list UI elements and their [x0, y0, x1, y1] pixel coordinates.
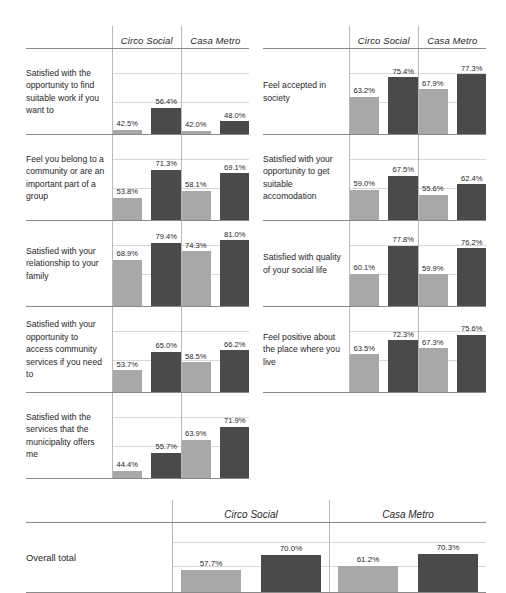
bar-value-label: 70.3%	[437, 544, 460, 552]
plot-cell: 53.8%71.3%	[112, 135, 181, 220]
bar-group: 63.9%71.9%	[182, 393, 250, 478]
bar-value-label: 71.3%	[155, 160, 177, 168]
bar-dark	[457, 248, 486, 306]
bar-value-label: 77.8%	[392, 236, 414, 244]
bar-value-label: 77.3%	[461, 65, 483, 73]
bar-item-light: 57.7%	[181, 523, 241, 592]
plot-cell: 59.9%76.2%	[418, 221, 487, 306]
question-label: Satisfied with your opportunity to get s…	[263, 135, 349, 220]
bar-dark	[261, 555, 321, 592]
question-label: Satisfied with the services that the mun…	[26, 393, 112, 478]
bar-light	[112, 198, 142, 220]
column-header-left: Circo Social Casa Metro	[26, 26, 249, 49]
bar-group: 55.6%62.4%	[419, 135, 487, 220]
bar-dark	[388, 340, 417, 392]
bar-dark	[388, 77, 417, 134]
bar-value-label: 75.4%	[392, 68, 414, 76]
plot-cell: 58.1%69.1%	[181, 135, 250, 220]
bar-dark	[388, 246, 417, 307]
question-label: Satisfied with your opportunity to acces…	[26, 307, 112, 392]
bar-value-label: 71.9%	[224, 417, 246, 425]
bar-light	[112, 370, 142, 392]
bar-item-light: 53.7%	[112, 307, 142, 392]
bar-group: 53.7%65.0%	[113, 307, 181, 392]
bar-group: 59.9%76.2%	[419, 221, 487, 306]
bar-value-label: 76.2%	[461, 239, 483, 247]
bar-value-label: 58.1%	[185, 181, 207, 189]
question-row: Satisfied with your relationship to your…	[26, 221, 249, 307]
bar-item-light: 42.5%	[112, 49, 142, 134]
panel-column-right: Circo Social Casa Metro Feel accepted in…	[263, 26, 486, 479]
bar-item-dark: 69.1%	[220, 135, 249, 220]
plot-cell: 59.0%67.5%	[349, 135, 418, 220]
panel-rows-right: Feel accepted in society63.2%75.4%67.9%7…	[263, 49, 486, 393]
bar-light	[418, 348, 448, 392]
bar-item-light: 74.3%	[181, 221, 211, 306]
question-row: Satisfied with your opportunity to get s…	[263, 135, 486, 221]
bar-value-label: 70.0%	[280, 545, 303, 553]
bar-dark	[418, 554, 478, 592]
bar-value-label: 56.4%	[155, 98, 177, 106]
bar-value-label: 61.2%	[357, 556, 380, 564]
bar-item-light: 63.9%	[181, 393, 211, 478]
bar-light	[181, 362, 211, 392]
bar-item-light: 42.0%	[181, 49, 211, 134]
bar-item-light: 63.5%	[349, 307, 379, 392]
question-row: Satisfied with quality of your social li…	[263, 221, 486, 307]
bar-value-label: 58.5%	[185, 353, 207, 361]
bar-item-light: 68.9%	[112, 221, 142, 306]
bar-dark	[151, 243, 180, 306]
bar-group: 53.8%71.3%	[113, 135, 181, 220]
column-label-casa-metro: Casa Metro	[329, 500, 486, 522]
bar-item-dark: 56.4%	[151, 49, 180, 134]
bar-item-dark: 67.5%	[388, 135, 417, 220]
bar-value-label: 65.0%	[155, 342, 177, 350]
bar-item-light: 60.1%	[349, 221, 379, 306]
bar-group: 58.5%66.2%	[182, 307, 250, 392]
bar-light	[349, 190, 379, 220]
bar-dark	[151, 170, 180, 220]
header-spacer	[26, 26, 112, 48]
bar-item-light: 44.4%	[112, 393, 142, 478]
bar-item-dark: 66.2%	[220, 307, 249, 392]
bar-light	[181, 191, 211, 220]
plot-cell: 74.3%81.0%	[181, 221, 250, 306]
bar-value-label: 60.1%	[353, 264, 375, 272]
bar-group: 68.9%79.4%	[113, 221, 181, 306]
bar-item-dark: 79.4%	[151, 221, 180, 306]
bar-dark	[151, 453, 180, 478]
bar-item-dark: 81.0%	[220, 221, 249, 306]
bar-dark	[220, 350, 249, 392]
question-row: Satisfied with the opportunity to find s…	[26, 49, 249, 135]
plot-cell: 67.9%77.3%	[418, 49, 487, 134]
bar-value-label: 55.6%	[422, 185, 444, 193]
header-spacer	[26, 500, 172, 522]
plot-cell: 63.2%75.4%	[349, 49, 418, 134]
bar-item-dark: 70.0%	[261, 523, 321, 592]
bar-group: 74.3%81.0%	[182, 221, 250, 306]
plot-cell: 55.6%62.4%	[418, 135, 487, 220]
plot-cell: 61.2%70.3%	[329, 523, 486, 592]
question-label: Satisfied with the opportunity to find s…	[26, 49, 112, 134]
plot-cell: 44.4%55.7%	[112, 393, 181, 478]
bar-group: 42.0%48.0%	[182, 49, 250, 134]
bar-light	[181, 251, 211, 306]
bar-item-dark: 77.3%	[457, 49, 486, 134]
bar-value-label: 79.4%	[155, 233, 177, 241]
bar-light	[418, 195, 448, 220]
question-label: Feel positive about the place where you …	[263, 307, 349, 392]
bar-light	[349, 274, 379, 306]
bar-light	[112, 471, 142, 478]
bar-item-light: 58.1%	[181, 135, 211, 220]
bar-value-label: 68.9%	[116, 250, 138, 258]
bar-item-dark: 55.7%	[151, 393, 180, 478]
question-label: Satisfied with your relationship to your…	[26, 221, 112, 306]
question-row: Feel you belong to a community or are an…	[26, 135, 249, 221]
bar-value-label: 53.8%	[116, 188, 138, 196]
bar-item-dark: 77.8%	[388, 221, 417, 306]
bar-item-dark: 75.4%	[388, 49, 417, 134]
bar-value-label: 42.0%	[185, 121, 207, 129]
question-label: Feel you belong to a community or are an…	[26, 135, 112, 220]
column-label-circo-social: Circo Social	[172, 500, 329, 522]
overall-total-panel: Circo Social Casa Metro Overall total57.…	[26, 500, 486, 593]
